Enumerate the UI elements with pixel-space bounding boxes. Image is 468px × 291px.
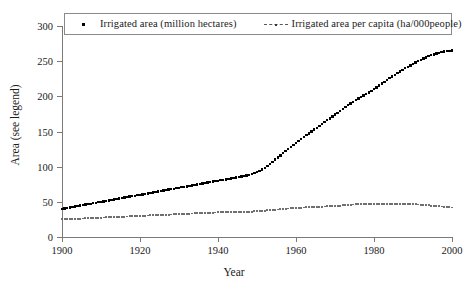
legend-label-irrigated-area-per-capita: Irrigated area per capita (ha/000people) (289, 18, 462, 30)
data-point-per-capita (209, 212, 211, 214)
legend-marker-square-dot-icon (71, 18, 97, 30)
data-point-per-capita (191, 213, 193, 215)
data-point-per-capita (438, 205, 440, 207)
data-point-irrigated-area (266, 165, 268, 167)
data-point-per-capita (136, 215, 138, 217)
data-point-per-capita (404, 203, 406, 205)
data-point-irrigated-area (282, 152, 284, 154)
data-point-per-capita (279, 208, 281, 210)
data-point-per-capita (155, 214, 157, 216)
data-point-per-capita (407, 203, 409, 205)
data-point-per-capita (428, 204, 430, 206)
data-point-per-capita (381, 203, 383, 205)
data-point-per-capita (201, 212, 203, 214)
x-tick-1900 (62, 237, 63, 242)
data-point-per-capita (248, 211, 250, 213)
y-tick-100: 100 (57, 167, 62, 168)
data-point-per-capita (360, 203, 362, 205)
data-point-irrigated-area (451, 49, 453, 51)
data-point-per-capita (235, 211, 237, 213)
data-point-per-capita (417, 204, 419, 206)
legend-marker-dashed-line-icon (263, 18, 289, 30)
data-point-per-capita (441, 206, 443, 208)
data-point-per-capita (331, 205, 333, 207)
data-point-per-capita (220, 211, 222, 213)
data-point-irrigated-area (279, 154, 281, 156)
y-tick-label-250: 250 (37, 55, 53, 68)
data-point-per-capita (308, 206, 310, 208)
x-tick-label-1900: 1900 (52, 244, 73, 257)
data-point-per-capita (121, 216, 123, 218)
data-point-per-capita (246, 211, 248, 213)
data-point-irrigated-area (290, 146, 292, 148)
data-point-per-capita (391, 203, 393, 205)
data-point-per-capita (363, 203, 365, 205)
x-tick-1960 (296, 237, 297, 242)
legend-entry-irrigated-area-per-capita: Irrigated area per capita (ha/000people) (263, 14, 462, 34)
data-point-per-capita (90, 217, 92, 219)
data-point-per-capita (337, 205, 339, 207)
data-point-per-capita (251, 211, 253, 213)
data-point-per-capita (269, 209, 271, 211)
data-point-per-capita (79, 218, 81, 220)
data-point-per-capita (311, 206, 313, 208)
data-point-per-capita (435, 205, 437, 207)
data-point-per-capita (292, 207, 294, 209)
data-point-irrigated-area (264, 167, 266, 169)
data-point-per-capita (95, 217, 97, 219)
data-point-per-capita (344, 204, 346, 206)
data-point-per-capita (313, 206, 315, 208)
data-point-per-capita (183, 213, 185, 215)
x-axis-ticks: 190019201940196019802000 (62, 237, 452, 261)
y-tick-label-200: 200 (37, 90, 53, 103)
data-point-per-capita (342, 204, 344, 206)
data-point-per-capita (64, 218, 66, 220)
data-point-per-capita (100, 217, 102, 219)
data-point-per-capita (149, 214, 151, 216)
x-tick-label-2000: 2000 (442, 244, 463, 257)
x-tick-label-1960: 1960 (286, 244, 307, 257)
data-point-per-capita (272, 209, 274, 211)
data-point-per-capita (105, 216, 107, 218)
data-point-per-capita (152, 214, 154, 216)
data-point-per-capita (225, 211, 227, 213)
data-point-per-capita (134, 215, 136, 217)
x-tick-2000 (452, 237, 453, 242)
data-point-per-capita (446, 206, 448, 208)
data-point-irrigated-area (284, 150, 286, 152)
x-axis-title: Year (0, 266, 468, 278)
data-point-per-capita (318, 206, 320, 208)
data-point-per-capita (355, 203, 357, 205)
data-point-irrigated-area (274, 158, 276, 160)
data-point-per-capita (451, 207, 453, 209)
x-tick-1940 (218, 237, 219, 242)
y-tick-label-50: 50 (43, 196, 54, 209)
data-point-per-capita (87, 217, 89, 219)
data-point-per-capita (298, 207, 300, 209)
data-point-per-capita (160, 214, 162, 216)
data-point-per-capita (212, 212, 214, 214)
chart-figure: Irrigated area (million hectares) Irriga… (0, 0, 468, 291)
data-point-per-capita (178, 213, 180, 215)
data-point-per-capita (84, 217, 86, 219)
data-point-per-capita (287, 208, 289, 210)
data-point-per-capita (430, 205, 432, 207)
data-point-per-capita (103, 217, 105, 219)
data-point-per-capita (300, 207, 302, 209)
data-point-per-capita (144, 215, 146, 217)
y-tick-150: 150 (57, 132, 62, 133)
data-point-per-capita (116, 216, 118, 218)
data-point-per-capita (227, 211, 229, 213)
data-point-per-capita (422, 204, 424, 206)
data-point-per-capita (409, 203, 411, 205)
data-point-per-capita (165, 214, 167, 216)
data-point-per-capita (266, 209, 268, 211)
y-tick-50: 50 (57, 202, 62, 203)
data-point-per-capita (365, 203, 367, 205)
data-point-per-capita (142, 215, 144, 217)
data-point-irrigated-area (287, 148, 289, 150)
data-point-per-capita (238, 211, 240, 213)
data-point-per-capita (108, 216, 110, 218)
data-point-per-capita (412, 203, 414, 205)
data-point-per-capita (173, 213, 175, 215)
